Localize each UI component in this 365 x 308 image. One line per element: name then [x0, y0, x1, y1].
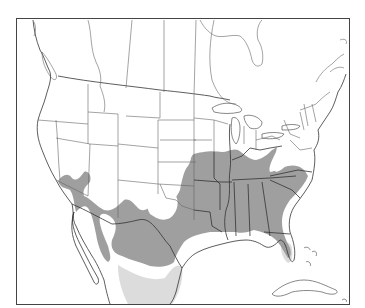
range-map [0, 0, 365, 308]
map-frame [17, 19, 350, 305]
